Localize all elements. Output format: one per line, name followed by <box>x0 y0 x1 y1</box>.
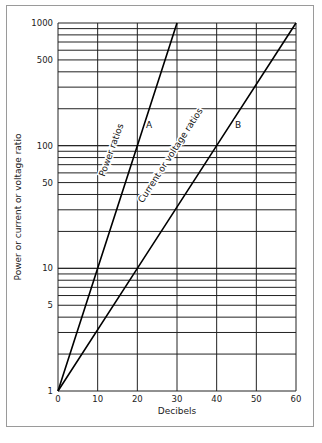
y-tick-label: 5 <box>48 300 53 310</box>
y-tick-label: 10 <box>42 263 53 273</box>
x-tick-label: 40 <box>211 394 222 404</box>
series-a-marker-label: A <box>146 120 153 130</box>
x-tick-label: 50 <box>251 394 262 404</box>
series-line-a <box>58 23 177 391</box>
x-tick-label: 30 <box>172 394 183 404</box>
y-tick-label: 1000 <box>31 18 53 28</box>
y-tick-label: 100 <box>37 141 53 151</box>
x-tick-label: 60 <box>291 394 302 404</box>
y-tick-labels: 1510501005001000 <box>31 18 53 396</box>
x-tick-label: 20 <box>132 394 143 404</box>
x-tick-label: 10 <box>92 394 103 404</box>
y-tick-label: 50 <box>42 178 53 188</box>
series-a-name-label: Power ratios <box>97 122 125 178</box>
x-axis-label: Decibels <box>158 406 197 416</box>
y-axis-label: Power or current or voltage ratio <box>13 133 23 280</box>
x-tick-labels: 0102030405060 <box>55 394 301 404</box>
decibel-chart: 1510501005001000 0102030405060 Decibels … <box>0 0 322 443</box>
y-tick-label: 1 <box>48 386 53 396</box>
y-tick-label: 500 <box>37 55 53 65</box>
x-tick-label: 0 <box>55 394 60 404</box>
series-b-marker-label: B <box>235 120 241 130</box>
